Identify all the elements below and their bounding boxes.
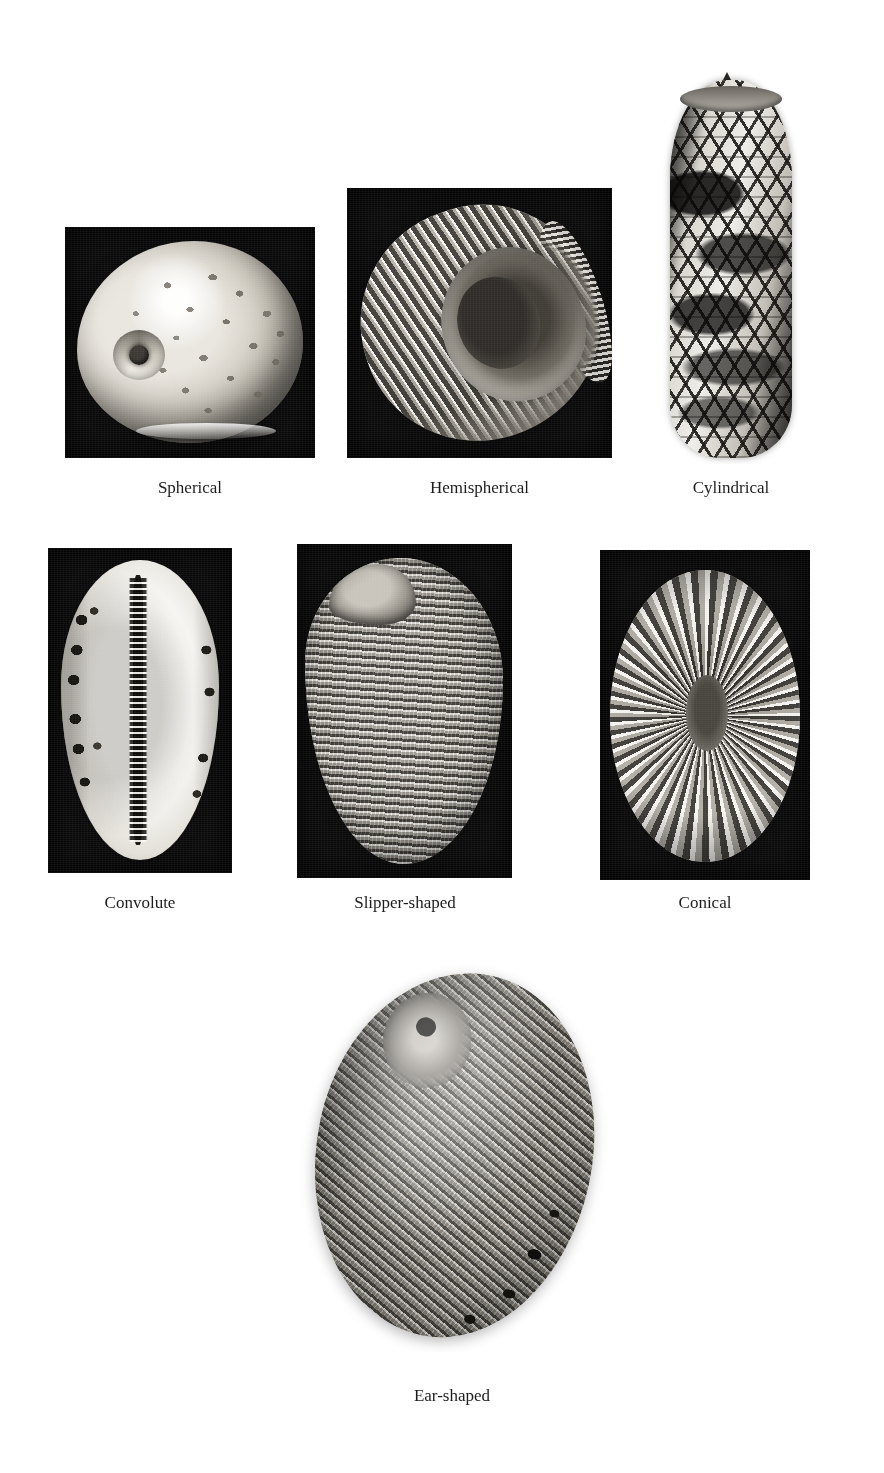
caption-slipper-shaped: Slipper-shaped — [290, 893, 520, 913]
abalone-shell-illustration — [296, 962, 608, 1352]
specimen-image-conical — [600, 550, 810, 880]
cowrie-shell-illustration — [61, 560, 219, 860]
cone-shell-shoulder — [680, 86, 782, 112]
shell-lip — [136, 423, 276, 439]
caption-convolute: Convolute — [40, 893, 240, 913]
caption-spherical: Spherical — [65, 478, 315, 498]
limpet-shell-illustration — [610, 570, 800, 862]
clipped-header-text — [0, 0, 884, 2]
specimen-image-cylindrical — [660, 72, 802, 464]
specimen-image-slipper-shaped — [297, 544, 512, 878]
shell-vignette — [305, 558, 503, 864]
caption-conical: Conical — [600, 893, 810, 913]
nerite-shell-illustration — [347, 188, 612, 458]
specimen-image-ear-shaped — [296, 962, 608, 1352]
caption-cylindrical: Cylindrical — [625, 478, 837, 498]
shell-edge-shadow — [610, 570, 800, 862]
slipper-limpet-illustration — [305, 558, 503, 864]
specimen-image-spherical — [65, 227, 315, 458]
caption-hemispherical: Hemispherical — [347, 478, 612, 498]
shell-aperture-teeth — [127, 578, 150, 842]
caption-ear-shaped: Ear-shaped — [296, 1386, 608, 1406]
specimen-image-convolute — [48, 548, 232, 873]
shell-shading — [670, 80, 792, 458]
shell-spire — [113, 330, 165, 380]
figure-page: Spherical Hemispherical Cylindrical — [0, 0, 884, 1473]
shell-spot-pattern — [77, 241, 303, 443]
specimen-image-hemispherical — [347, 188, 612, 458]
cone-shell-illustration — [670, 80, 792, 458]
moon-snail-shell-illustration — [77, 241, 303, 443]
